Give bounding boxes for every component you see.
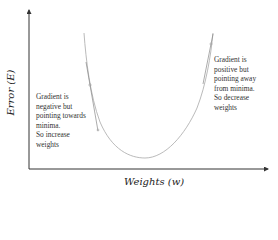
left-tangent-line: [86, 62, 98, 131]
error-curve: [84, 33, 213, 158]
positive-gradient-annotation: Gradient is positive but pointing away f…: [214, 55, 256, 113]
x-axis-label: Weights (w): [124, 176, 184, 187]
negative-gradient-annotation: Gradient is negative but pointing toward…: [36, 92, 86, 150]
y-axis-label: Error (E): [5, 76, 16, 116]
right-tangent-line: [203, 34, 213, 84]
